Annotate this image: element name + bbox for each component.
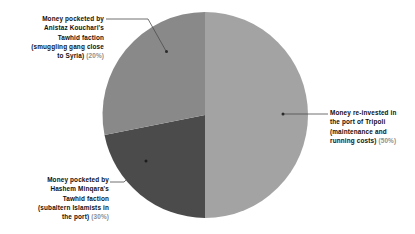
pie-chart-figure: Money pocketed by Anistaz Kouchari's Taw…: [0, 0, 415, 234]
callout-line: Anistaz Kouchari's: [4, 23, 104, 32]
callout-percent: (20%): [86, 52, 104, 59]
callout-line: (maintenance and: [330, 127, 415, 136]
callout-line: (smuggling gang close: [4, 42, 104, 51]
callout-reinvested-port: Money re-invested in the port of Tripoli…: [330, 108, 415, 145]
callout-line: (subaltern Islamists in: [9, 203, 109, 212]
leader-dot-reinvested: [282, 113, 285, 116]
callout-line-text: to Syria): [57, 52, 84, 59]
callout-line: Money re-invested in: [330, 108, 415, 117]
leader-dot-minqara: [145, 160, 148, 163]
callout-last-line: the port) (30%): [9, 212, 109, 221]
callout-line: Tawhid faction: [4, 33, 104, 42]
callout-last-line: to Syria) (20%): [4, 51, 104, 60]
callout-percent: (30%): [91, 213, 109, 220]
pie-slice-kouchari-faction[interactable]: [103, 12, 205, 135]
callout-line-text: the port): [62, 213, 89, 220]
callout-minqara-faction: Money pocketed by Hashem Minqara's Tawhi…: [9, 175, 109, 221]
callout-line: Money pocketed by: [9, 175, 109, 184]
callout-last-line: running costs) (50%): [330, 136, 415, 145]
callout-line-text: running costs): [330, 137, 376, 144]
pie-slice-reinvested-port[interactable]: [205, 12, 308, 218]
callout-percent: (50%): [378, 137, 396, 144]
callout-line: Money pocketed by: [4, 14, 104, 23]
callout-line: Hashem Minqara's: [9, 184, 109, 193]
callout-line: the port of Tripoli: [330, 117, 415, 126]
callout-kouchari-faction: Money pocketed by Anistaz Kouchari's Taw…: [4, 14, 104, 60]
leader-dot-kouchari: [165, 50, 168, 53]
callout-line: Tawhid faction: [9, 194, 109, 203]
